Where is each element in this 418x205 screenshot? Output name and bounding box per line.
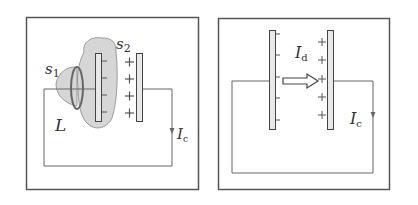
label-L: L xyxy=(54,115,66,135)
panel-right-frame xyxy=(219,19,390,190)
positive-plate xyxy=(137,54,143,122)
positive-plate xyxy=(328,31,334,130)
negative-plate xyxy=(270,31,276,130)
panel-left-ampere-loop: s1 s2 L Ic xyxy=(27,18,199,190)
negative-plate xyxy=(96,54,102,122)
capacitor-displacement-current-diagram: s1 s2 L Ic Id Ic xyxy=(0,0,418,205)
panel-right-displacement-current: Id Ic xyxy=(219,19,390,190)
